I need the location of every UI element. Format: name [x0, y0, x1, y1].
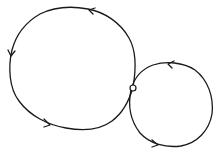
- diagram-canvas: [0, 0, 221, 157]
- small-loop-path: [130, 63, 213, 147]
- junction-marker-icon: [130, 85, 136, 91]
- two-loop-diagram: [0, 0, 221, 157]
- large-loop-path: [10, 7, 135, 129]
